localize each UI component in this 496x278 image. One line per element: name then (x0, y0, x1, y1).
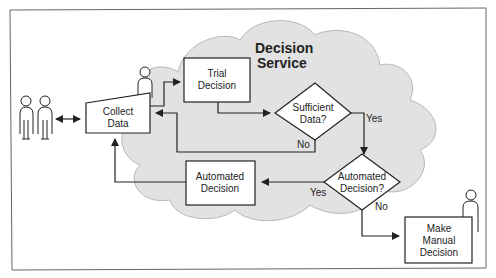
svg-text:Decision?: Decision? (340, 183, 384, 194)
svg-text:Collect: Collect (103, 106, 134, 117)
manual-decision-node: Make Manual Decision (405, 217, 472, 263)
edge-label-yes: Yes (366, 113, 382, 124)
svg-text:Sufficient: Sufficient (293, 102, 334, 113)
svg-text:Trial: Trial (207, 68, 226, 79)
service-title: Decision (255, 40, 313, 56)
svg-text:Data?: Data? (300, 114, 327, 125)
service-title: Service (257, 55, 307, 71)
svg-text:Decision: Decision (198, 80, 236, 91)
edge-label-no: No (375, 201, 388, 212)
edge-label-yes: Yes (310, 187, 326, 198)
svg-text:Decision: Decision (420, 247, 458, 258)
edge-label-no: No (297, 139, 310, 150)
svg-text:Decision: Decision (201, 183, 239, 194)
trial-decision-node: Trial Decision (184, 58, 250, 102)
svg-text:Automated: Automated (338, 171, 386, 182)
automated-decision-node: Automated Decision (186, 161, 255, 205)
svg-text:Manual: Manual (423, 235, 456, 246)
svg-text:Data: Data (107, 118, 129, 129)
svg-text:Automated: Automated (196, 171, 244, 182)
svg-text:Make: Make (427, 223, 452, 234)
decision-service-diagram: Decision Service Collect Data Trial Deci… (0, 0, 496, 278)
